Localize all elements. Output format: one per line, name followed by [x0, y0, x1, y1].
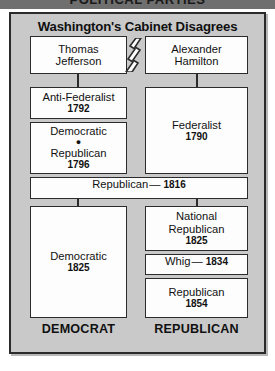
node-year: 1834 [206, 256, 228, 268]
node-democratic-republican: Democratic ● Republican 1796 [30, 122, 127, 174]
node-whig: Whig — 1834 [145, 254, 248, 275]
node-label-line2: Hamilton [174, 55, 218, 67]
node-federalist: Federalist 1790 [145, 87, 248, 174]
node-year: 1825 [67, 262, 89, 274]
node-democratic: Democratic 1825 [30, 206, 127, 318]
node-dash: — [149, 178, 160, 190]
clipped-heading-text: POLITICAL PARTIES [0, 0, 275, 7]
node-year: 1854 [185, 298, 207, 310]
node-label-line1: Thomas [58, 43, 98, 55]
connector-jefferson-down [77, 74, 79, 87]
node-dash: — [192, 255, 203, 267]
node-label: Federalist [172, 119, 221, 131]
node-republican-1816: Republican — 1816 [30, 177, 248, 199]
node-year: 1816 [163, 179, 185, 191]
node-alexander-hamilton: Alexander Hamilton [145, 36, 248, 74]
footer-label-democrat: DEMOCRAT [30, 322, 127, 336]
node-label: Anti-Federalist [42, 91, 114, 103]
node-republican-1854: Republican 1854 [145, 278, 248, 318]
node-separator-dot: ● [76, 139, 81, 146]
node-label: Republican [92, 178, 148, 190]
chart-inner: Washington's Cabinet Disagrees Thomas Je… [11, 14, 264, 352]
node-label-line2: Jefferson [56, 55, 102, 67]
node-label: Republican [169, 286, 225, 298]
node-year: 1792 [67, 103, 89, 115]
chart-title: Washington's Cabinet Disagrees [11, 19, 264, 34]
clipped-page-heading-band: POLITICAL PARTIES [0, 0, 275, 9]
node-year: 1796 [67, 159, 89, 171]
node-label: Democratic [50, 250, 107, 262]
footer-label-republican: REPUBLICAN [145, 322, 248, 336]
node-label-line1: Alexander [171, 43, 221, 55]
chart-frame: Washington's Cabinet Disagrees Thomas Je… [9, 12, 266, 354]
node-label-line1: National [176, 210, 217, 222]
node-year: 1790 [185, 131, 207, 143]
node-year: 1825 [185, 235, 207, 247]
node-label-line2: Republican [169, 223, 225, 235]
node-national-republican: National Republican 1825 [145, 206, 248, 251]
connector-hamilton-down [196, 74, 198, 87]
node-label-line1: Democratic [50, 125, 107, 137]
node-anti-federalist: Anti-Federalist 1792 [30, 87, 127, 119]
node-thomas-jefferson: Thomas Jefferson [30, 36, 127, 74]
node-label-line2: Republican [51, 147, 107, 159]
node-label: Whig [165, 255, 191, 267]
